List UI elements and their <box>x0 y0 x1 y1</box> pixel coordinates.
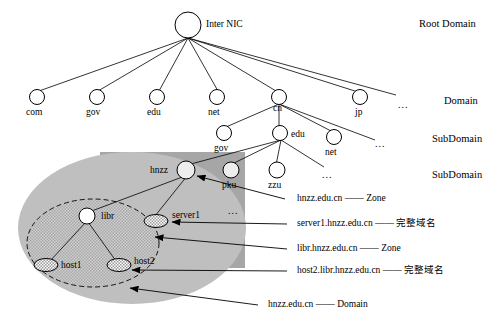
annotation-kind: Zone <box>366 193 386 203</box>
node-label-cn-edu: edu <box>291 130 305 140</box>
node-label-host2: host2 <box>134 257 155 267</box>
node-label-gov: gov <box>86 108 100 118</box>
node-com[interactable] <box>30 90 45 105</box>
edge-cn-gov <box>226 104 279 127</box>
tier-label-subdomain-2: SubDomain <box>432 170 482 181</box>
ellipsis-domain: ... <box>398 100 409 110</box>
annotation-name: host2.libr.hnzz.edu.cn <box>297 265 380 275</box>
node-label-server1: server1 <box>172 211 200 221</box>
node-host2[interactable] <box>107 259 131 272</box>
zone-shading-group <box>18 152 246 304</box>
annotation-zone-libr: libr.hnzz.edu.cn —— Zone <box>297 244 401 254</box>
annotation-fqdn-host2: host2.libr.hnzz.edu.cn —— 完整域名 <box>297 266 444 276</box>
ellipsis-hnzz: ... <box>322 170 333 180</box>
node-label-cn: cn <box>273 104 282 114</box>
annotation-name: libr.hnzz.edu.cn <box>297 243 357 253</box>
annotation-name: server1.hnzz.edu.cn <box>297 218 373 228</box>
tier-label-subdomain-1: SubDomain <box>432 134 482 145</box>
node-label-root: Inter NIC <box>206 20 243 30</box>
annotation-domain-hnzz: hnzz.edu.cn —— Domain <box>268 300 368 310</box>
node-libr[interactable] <box>79 208 95 224</box>
edge-root-com <box>39 38 188 91</box>
node-jp[interactable] <box>353 90 368 105</box>
edge-cn-net <box>279 104 331 131</box>
node-zzu[interactable] <box>269 162 285 178</box>
ellipsis-zone: ... <box>228 206 239 216</box>
annotation-name: hnzz.edu.cn <box>297 193 342 203</box>
annotation-separator: —— <box>375 218 394 228</box>
node-net[interactable] <box>210 90 225 105</box>
annotation-fqdn-server1: server1.hnzz.edu.cn —— 完整域名 <box>297 219 436 229</box>
tier-label-domain: Domain <box>444 96 478 107</box>
edge-edu-zzu <box>276 140 281 165</box>
annotation-separator: —— <box>345 193 364 203</box>
edge-root-edu <box>159 38 188 91</box>
node-label-com: com <box>26 108 42 118</box>
edge-edu-more <box>281 140 324 167</box>
node-pku[interactable] <box>223 162 239 178</box>
node-cn-edu[interactable] <box>273 126 288 141</box>
node-label-jp: jp <box>355 108 362 118</box>
node-root[interactable] <box>175 12 201 38</box>
annotation-kind: Zone <box>381 243 401 253</box>
annotation-separator: —— <box>360 243 379 253</box>
node-label-hnzz: hnzz <box>150 166 168 176</box>
annotation-zone-hnzz: hnzz.edu.cn —— Zone <box>297 194 386 204</box>
node-label-cn-net: net <box>325 148 337 158</box>
annotation-kind: 完整域名 <box>396 218 436 228</box>
annotation-kind: Domain <box>337 299 368 309</box>
node-label-host1: host1 <box>61 261 82 271</box>
node-cn-net[interactable] <box>327 130 342 145</box>
annotation-separator: —— <box>383 265 402 275</box>
node-label-zzu: zzu <box>268 181 281 191</box>
node-cn-gov[interactable] <box>217 126 232 141</box>
node-label-cn-gov: gov <box>214 144 228 154</box>
annotation-name: hnzz.edu.cn <box>268 299 313 309</box>
tier-label-root-domain: Root Domain <box>419 19 476 30</box>
node-label-net: net <box>208 108 220 118</box>
edge-root-jp <box>188 38 358 92</box>
annotation-separator: —— <box>316 299 335 309</box>
node-gov[interactable] <box>90 90 105 105</box>
ellipsis-subdomain: ... <box>375 139 386 149</box>
node-server1[interactable] <box>144 215 168 228</box>
node-label-libr: libr <box>101 212 114 222</box>
edge-root-gov <box>98 38 188 91</box>
node-label-pku: pku <box>222 181 236 191</box>
node-hnzz[interactable] <box>177 161 195 179</box>
diagram-canvas <box>0 0 501 330</box>
edge-root-cn <box>188 38 276 91</box>
node-edu[interactable] <box>150 90 165 105</box>
node-host1[interactable] <box>34 259 58 272</box>
dns-hierarchy-diagram: Inter NIC com gov edu net cn jp gov edu … <box>0 0 501 330</box>
node-label-edu: edu <box>147 108 161 118</box>
edge-root-more <box>188 38 396 95</box>
annotation-kind: 完整域名 <box>404 265 444 275</box>
